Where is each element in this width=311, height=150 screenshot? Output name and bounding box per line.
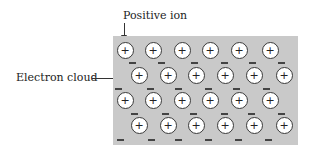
electron-minus-icon bbox=[129, 62, 136, 64]
electron-cloud-label: Electron cloud bbox=[16, 71, 98, 84]
electron-minus-icon bbox=[190, 113, 197, 115]
electron-minus-icon bbox=[263, 88, 270, 90]
electron-minus-icon bbox=[205, 139, 212, 141]
electron-minus-icon bbox=[233, 88, 240, 90]
electron-minus-icon bbox=[148, 139, 155, 141]
positive-ion: + bbox=[174, 42, 191, 59]
positive-ion-arrow-shaft bbox=[124, 23, 125, 35]
electron-minus-icon bbox=[158, 62, 165, 64]
positive-ion: + bbox=[188, 67, 205, 84]
positive-ion: + bbox=[174, 92, 191, 109]
positive-ion: + bbox=[202, 92, 219, 109]
positive-ion: + bbox=[160, 117, 177, 134]
electron-minus-icon bbox=[221, 62, 228, 64]
positive-ion: + bbox=[117, 92, 134, 109]
positive-ion: + bbox=[262, 92, 279, 109]
electron-minus-icon bbox=[175, 88, 182, 90]
positive-ion: + bbox=[276, 67, 293, 84]
electron-minus-icon bbox=[191, 62, 198, 64]
electron-minus-icon bbox=[131, 113, 138, 115]
positive-ion-label: Positive ion bbox=[123, 9, 187, 22]
electron-minus-icon bbox=[249, 62, 256, 64]
electron-minus-icon bbox=[221, 113, 228, 115]
positive-ion: + bbox=[246, 67, 263, 84]
positive-ion: + bbox=[231, 92, 248, 109]
electron-minus-icon bbox=[147, 88, 154, 90]
electron-minus-icon bbox=[278, 62, 285, 64]
positive-ion: + bbox=[131, 67, 148, 84]
positive-ion: + bbox=[231, 42, 248, 59]
positive-ion: + bbox=[262, 42, 279, 59]
positive-ion: + bbox=[202, 42, 219, 59]
electron-minus-icon bbox=[175, 139, 182, 141]
positive-ion: + bbox=[131, 117, 148, 134]
positive-ion: + bbox=[145, 42, 162, 59]
electron-minus-icon bbox=[235, 139, 242, 141]
electron-minus-icon bbox=[205, 88, 212, 90]
positive-ion: + bbox=[217, 67, 234, 84]
positive-ion: + bbox=[117, 42, 134, 59]
electron-minus-icon bbox=[265, 139, 272, 141]
electron-minus-icon bbox=[248, 113, 255, 115]
electron-minus-icon bbox=[115, 88, 122, 90]
electron-minus-icon bbox=[278, 113, 285, 115]
electron-minus-icon bbox=[117, 139, 124, 141]
positive-ion: + bbox=[276, 117, 293, 134]
positive-ion: + bbox=[246, 117, 263, 134]
electron-minus-icon bbox=[162, 113, 169, 115]
positive-ion: + bbox=[217, 117, 234, 134]
positive-ion: + bbox=[145, 92, 162, 109]
positive-ion: + bbox=[160, 67, 177, 84]
positive-ion: + bbox=[188, 117, 205, 134]
